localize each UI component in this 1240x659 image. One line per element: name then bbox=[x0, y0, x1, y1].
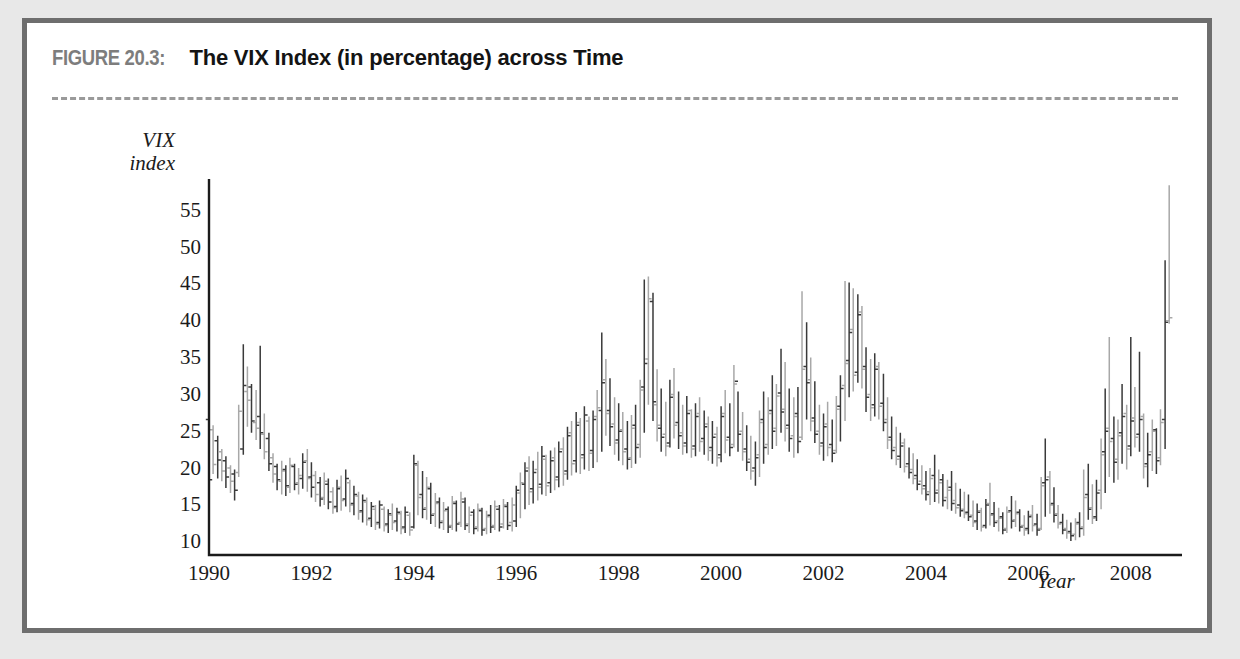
ohlc-bar bbox=[936, 470, 942, 504]
ohlc-bar bbox=[628, 415, 634, 468]
ohlc-bar bbox=[914, 459, 920, 490]
ohlc-bar bbox=[347, 480, 353, 512]
ohlc-bar bbox=[261, 414, 267, 460]
ohlc-bar bbox=[850, 288, 856, 391]
ohlc-bar bbox=[526, 456, 532, 505]
ohlc-bar bbox=[483, 511, 489, 535]
ohlc-bar bbox=[735, 381, 741, 452]
ohlc-bar bbox=[317, 477, 323, 506]
ohlc-bar bbox=[667, 380, 673, 448]
ohlc-bar bbox=[603, 359, 609, 436]
ohlc-bar bbox=[671, 368, 677, 439]
ohlc-bar bbox=[654, 369, 660, 441]
ohlc-bar bbox=[820, 414, 826, 461]
ohlc-bar bbox=[381, 506, 387, 531]
ohlc-bar bbox=[714, 427, 720, 467]
ohlc-bar bbox=[295, 468, 301, 495]
ohlc-bar bbox=[641, 279, 647, 432]
ohlc-bar bbox=[701, 411, 707, 455]
ohlc-bar bbox=[449, 496, 455, 530]
ohlc-bar bbox=[679, 405, 685, 455]
ohlc-bar bbox=[423, 477, 429, 520]
ohlc-bar bbox=[760, 391, 766, 463]
ohlc-bar bbox=[791, 397, 797, 457]
ohlc-bar bbox=[568, 421, 574, 476]
header-divider bbox=[52, 97, 1178, 100]
ohlc-bar bbox=[970, 500, 976, 527]
ohlc-bar bbox=[824, 402, 830, 457]
ohlc-bar bbox=[744, 425, 750, 471]
ohlc-bar bbox=[842, 281, 848, 421]
ohlc-bar bbox=[786, 389, 792, 452]
ohlc-bar bbox=[274, 464, 280, 491]
ohlc-bar bbox=[952, 483, 958, 514]
ohlc-bar bbox=[321, 472, 327, 504]
ohlc-bar bbox=[462, 498, 468, 530]
ohlc-bar bbox=[748, 436, 754, 480]
ohlc-bar bbox=[581, 406, 587, 469]
ohlc-bar bbox=[940, 474, 946, 506]
ohlc-bar bbox=[308, 462, 314, 497]
ohlc-bar bbox=[696, 397, 702, 452]
ohlc-bar bbox=[385, 509, 391, 533]
ohlc-bar bbox=[705, 417, 711, 461]
ohlc-bar bbox=[859, 306, 865, 389]
ohlc-bar bbox=[248, 384, 254, 433]
ohlc-bar bbox=[880, 374, 886, 431]
ohlc-bar bbox=[364, 498, 370, 526]
ohlc-bar bbox=[223, 456, 229, 488]
ohlc-bar bbox=[974, 503, 980, 530]
ohlc-bar bbox=[227, 465, 233, 493]
ohlc-bar bbox=[1000, 512, 1006, 534]
ohlc-bar bbox=[1085, 464, 1091, 520]
figure-header: FIGURE 20.3: The VIX Index (in percentag… bbox=[52, 45, 1172, 91]
ohlc-bar bbox=[560, 437, 566, 486]
ohlc-bar bbox=[428, 483, 434, 524]
ohlc-bar bbox=[812, 381, 818, 443]
ohlc-bar bbox=[615, 403, 621, 460]
ohlc-bar bbox=[987, 483, 993, 526]
ohlc-bar bbox=[419, 471, 425, 518]
ohlc-bar bbox=[1157, 409, 1163, 465]
ohlc-bar bbox=[893, 427, 899, 465]
ohlc-bar bbox=[731, 365, 737, 448]
ohlc-bar bbox=[752, 442, 758, 486]
ohlc-bar bbox=[1166, 185, 1172, 323]
ohlc-bar bbox=[995, 508, 1001, 532]
ohlc-bar bbox=[513, 486, 519, 527]
ohlc-bar bbox=[1115, 419, 1121, 479]
ohlc-bar bbox=[453, 500, 459, 531]
ohlc-bar bbox=[1064, 520, 1070, 539]
ohlc-bar bbox=[645, 277, 651, 405]
ohlc-bar bbox=[471, 509, 477, 534]
ohlc-bar bbox=[479, 508, 485, 536]
ohlc-bar bbox=[590, 411, 596, 468]
ohlc-bar bbox=[564, 427, 570, 480]
ohlc-bar bbox=[398, 511, 404, 535]
ohlc-bar bbox=[632, 405, 638, 464]
ohlc-bar bbox=[535, 452, 541, 501]
ohlc-bar bbox=[1128, 337, 1134, 456]
ohlc-bar bbox=[1144, 433, 1150, 488]
ohlc-bar bbox=[620, 412, 626, 465]
ohlc-bar bbox=[466, 506, 472, 533]
ohlc-bar bbox=[846, 282, 852, 397]
ohlc-bar bbox=[863, 347, 869, 412]
figure-caption: The VIX Index (in percentage) across Tim… bbox=[189, 45, 623, 71]
ohlc-bar bbox=[475, 503, 481, 531]
ohlc-bar bbox=[910, 453, 916, 484]
ohlc-bar bbox=[330, 487, 336, 514]
ohlc-bar bbox=[897, 433, 903, 468]
ohlc-bar bbox=[1029, 505, 1035, 532]
ohlc-bar bbox=[372, 505, 378, 530]
ohlc-bar bbox=[833, 396, 839, 453]
ohlc-bar bbox=[901, 439, 907, 473]
ohlc-bar bbox=[756, 411, 762, 477]
chart-plot-area: VIX index Year 10152025303540455055 1990… bbox=[27, 109, 1207, 629]
ohlc-bar bbox=[522, 462, 528, 509]
vix-ohlc-chart bbox=[27, 109, 1207, 629]
ohlc-bar bbox=[551, 447, 557, 490]
ohlc-bar bbox=[919, 465, 925, 494]
ohlc-bar bbox=[803, 322, 809, 419]
ohlc-bar bbox=[496, 505, 502, 532]
